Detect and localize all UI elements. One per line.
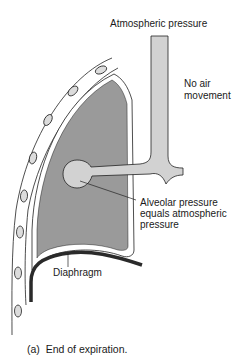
diaphragm-label: Diaphragm — [53, 267, 102, 278]
atmospheric-pressure-label: Atmospheric pressure — [110, 18, 207, 29]
figure-caption: (a) End of expiration. — [27, 344, 127, 355]
alveolar-label-line2: equals atmospheric — [140, 208, 227, 219]
no-air-label-line1: No air — [184, 78, 211, 89]
alveolar-label-line3: pressure — [140, 219, 179, 230]
alveolar-label-line1: Alveolar pressure — [140, 197, 218, 208]
lung-diagram — [0, 0, 248, 358]
no-air-label-line2: movement — [184, 90, 231, 101]
